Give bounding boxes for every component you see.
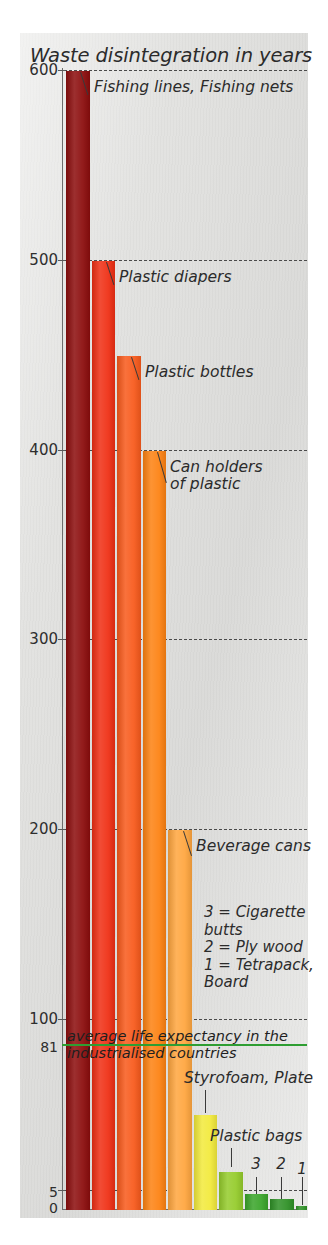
chart-title: Waste disintegration in years: [30, 44, 308, 67]
waste-disintegration-chart: Waste disintegration in years 600 500 40…: [0, 0, 328, 1245]
chart-panel: [20, 33, 308, 1218]
panel-texture: [20, 33, 308, 1218]
